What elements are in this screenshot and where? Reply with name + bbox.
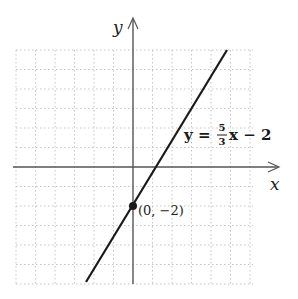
intercept-point: [129, 202, 137, 210]
graph-canvas: y x (0, −2) y = 5 3 x − 2: [0, 0, 298, 299]
equation-label: y = 5 3 x − 2: [183, 122, 271, 147]
y-axis-label: y: [112, 17, 123, 37]
slope-denominator: 3: [219, 136, 226, 147]
slope-numerator: 5: [219, 122, 226, 133]
equation-prefix: y =: [183, 126, 216, 144]
function-line: [86, 50, 227, 282]
point-label: (0, −2): [138, 203, 184, 218]
equation-suffix: x − 2: [229, 126, 271, 144]
x-axis: [13, 162, 279, 172]
y-axis: [128, 18, 138, 284]
x-axis-label: x: [270, 174, 280, 194]
